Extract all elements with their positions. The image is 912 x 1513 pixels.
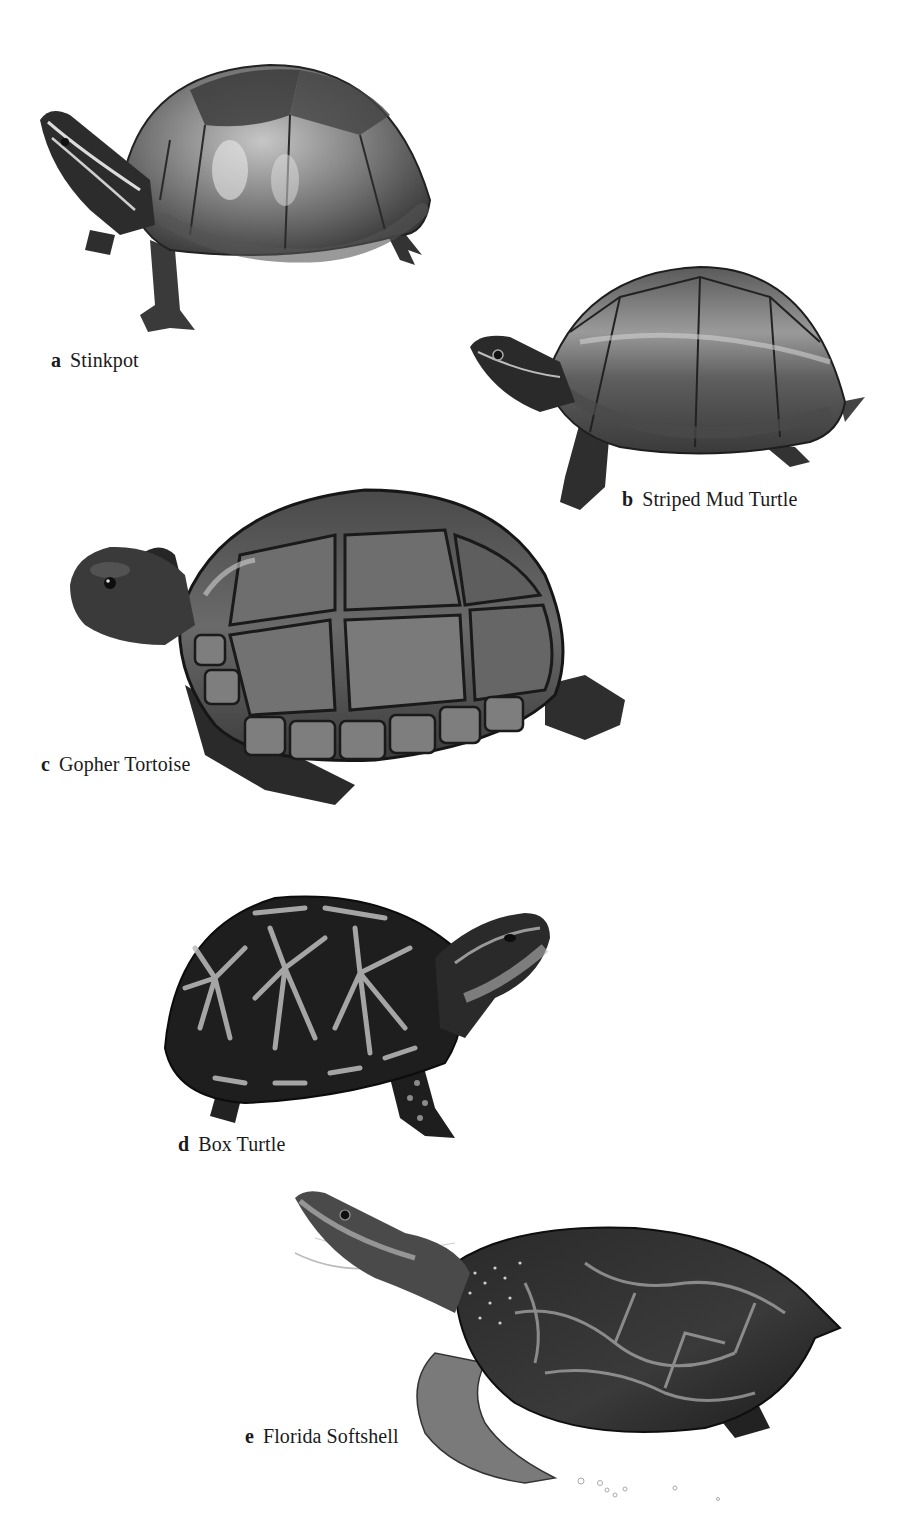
caption-florida-softshell: eFlorida Softshell bbox=[245, 1424, 399, 1448]
florida-softshell-illustration bbox=[285, 1183, 855, 1503]
caption-letter: e bbox=[245, 1425, 254, 1447]
caption-name: Florida Softshell bbox=[263, 1425, 399, 1447]
box-turtle-illustration bbox=[155, 888, 555, 1143]
caption-letter: d bbox=[178, 1133, 189, 1155]
caption-gopher-tortoise: cGopher Tortoise bbox=[41, 752, 190, 776]
caption-letter: a bbox=[51, 349, 61, 371]
caption-name: Box Turtle bbox=[198, 1133, 285, 1155]
caption-stinkpot: aStinkpot bbox=[51, 348, 139, 372]
stinkpot-illustration bbox=[30, 60, 435, 335]
caption-letter: c bbox=[41, 753, 50, 775]
caption-name: Striped Mud Turtle bbox=[642, 488, 797, 510]
caption-box-turtle: dBox Turtle bbox=[178, 1132, 285, 1156]
caption-name: Gopher Tortoise bbox=[59, 753, 190, 775]
striped-mud-turtle-illustration bbox=[470, 262, 865, 517]
caption-striped-mud-turtle: bStriped Mud Turtle bbox=[622, 487, 797, 511]
caption-name: Stinkpot bbox=[70, 349, 139, 371]
